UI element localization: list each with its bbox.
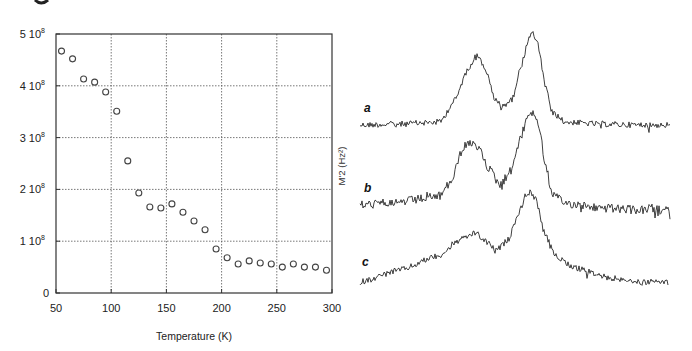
x-tick-label: 200	[212, 302, 230, 314]
data-point-marker	[235, 261, 241, 267]
y-axis-title: M'2 (Hz²)	[336, 147, 347, 186]
data-point-marker	[136, 190, 142, 196]
spectra-traces	[360, 32, 670, 286]
x-tick-label: 100	[102, 302, 120, 314]
y-axis-ticks: 01 1082 1083 1084 1085 108	[20, 27, 60, 299]
spectrum-label-b: b	[364, 181, 371, 195]
spectrum-trace-a	[360, 32, 670, 133]
spectrum-trace-b	[360, 111, 670, 220]
y-tick-label: 4 108	[20, 79, 45, 92]
data-point-marker	[114, 108, 120, 114]
spectrum-trace-c	[360, 190, 668, 286]
data-point-marker	[169, 201, 175, 207]
data-points	[59, 48, 330, 273]
data-point-marker	[180, 209, 186, 215]
plot-frame	[56, 34, 332, 293]
cropped-glyph-fragment	[35, 0, 48, 3]
data-point-marker	[246, 258, 252, 264]
spectra-panel: M'2 (Hz²) abc	[336, 32, 670, 286]
data-point-marker	[158, 205, 164, 211]
data-point-marker	[125, 158, 131, 164]
x-tick-label: 250	[268, 302, 286, 314]
data-point-marker	[59, 48, 65, 54]
y-tick-label: 3 108	[20, 131, 45, 144]
y-tick-label: 2 108	[20, 182, 45, 195]
data-point-marker	[191, 218, 197, 224]
grid-lines	[56, 34, 332, 293]
data-point-marker	[279, 264, 285, 270]
data-point-marker	[103, 89, 109, 95]
data-point-marker	[323, 267, 329, 273]
scatter-panel: 50100150200250300 01 1082 1083 1084 1085…	[20, 27, 342, 342]
figure: 50100150200250300 01 1082 1083 1084 1085…	[0, 0, 692, 351]
spectrum-label-c: c	[362, 255, 369, 269]
data-point-marker	[224, 255, 230, 261]
data-point-marker	[268, 261, 274, 267]
x-tick-label: 300	[323, 302, 341, 314]
data-point-marker	[92, 79, 98, 85]
data-point-marker	[70, 56, 76, 62]
x-tick-label: 150	[157, 302, 175, 314]
spectrum-label-a: a	[364, 101, 371, 115]
data-point-marker	[301, 264, 307, 270]
y-tick-label: 1 108	[20, 234, 45, 247]
data-point-marker	[257, 260, 263, 266]
data-point-marker	[81, 76, 87, 82]
data-point-marker	[202, 227, 208, 233]
y-tick-label: 5 108	[20, 27, 45, 40]
y-tick-label: 0	[43, 287, 49, 299]
x-axis-title: Temperature (K)	[156, 330, 232, 342]
figure-canvas: 50100150200250300 01 1082 1083 1084 1085…	[0, 0, 692, 351]
data-point-marker	[290, 261, 296, 267]
x-tick-label: 50	[50, 302, 62, 314]
data-point-marker	[213, 246, 219, 252]
data-point-marker	[312, 264, 318, 270]
data-point-marker	[147, 204, 153, 210]
